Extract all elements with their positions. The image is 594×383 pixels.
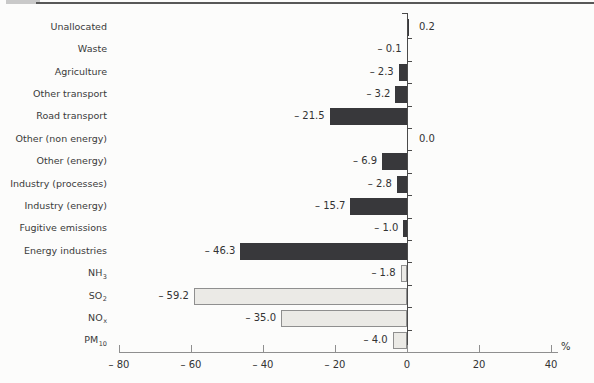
category-label: Other (non energy) [0, 132, 107, 146]
value-label: – 46.3 [175, 244, 235, 258]
zero-axis-tick [408, 330, 412, 331]
category-label: Industry (energy) [0, 199, 107, 213]
x-axis-tick [407, 345, 408, 352]
value-label: – 21.5 [265, 109, 325, 123]
category-label: Energy industries [0, 244, 107, 258]
x-axis-tick [479, 345, 480, 352]
x-axis-tick-label: – 60 [170, 359, 212, 370]
category-label-text: Unallocated [50, 21, 107, 32]
zero-axis-tick [408, 61, 412, 62]
x-axis-tick [551, 345, 552, 352]
bar [330, 108, 407, 125]
category-label-text: Agriculture [55, 66, 107, 77]
category-label-subscript: 3 [103, 273, 107, 281]
zero-axis-line [407, 13, 408, 352]
bar [382, 153, 407, 170]
category-label: NOx [0, 311, 107, 326]
x-axis-tick [263, 345, 264, 352]
x-axis-unit-label: % [561, 341, 571, 352]
x-axis-tick [335, 345, 336, 352]
x-axis-line [119, 352, 558, 353]
category-label: PM10 [0, 333, 107, 348]
bar [401, 265, 407, 282]
category-label: Other (energy) [0, 154, 107, 168]
bar [395, 86, 407, 103]
category-label: Waste [0, 42, 107, 56]
bar [393, 332, 407, 349]
scan-artifact-top-line [36, 2, 594, 4]
category-label: Agriculture [0, 65, 107, 79]
x-axis-tick-label: – 20 [314, 359, 356, 370]
bar [194, 288, 407, 305]
value-label: 0.2 [419, 20, 435, 34]
category-label-text: Other (energy) [36, 155, 107, 166]
x-axis-tick [191, 345, 192, 352]
zero-axis-tick [408, 173, 412, 174]
category-label-text: Fugitive emissions [19, 222, 107, 233]
category-label-text: Industry (energy) [24, 200, 107, 211]
category-label: Other transport [0, 87, 107, 101]
value-label: 0.0 [419, 132, 435, 146]
category-label-subscript: x [103, 317, 107, 325]
zero-axis-tick [408, 128, 412, 129]
category-label: Fugitive emissions [0, 221, 107, 235]
value-label: – 4.0 [328, 333, 388, 347]
zero-axis-tick [408, 38, 412, 39]
bar [399, 64, 407, 81]
bar [408, 19, 409, 36]
zero-axis-tick [408, 285, 412, 286]
zero-axis-tick [408, 218, 412, 219]
value-label: – 35.0 [216, 311, 276, 325]
category-label-text: Road transport [36, 110, 107, 121]
category-label: Unallocated [0, 20, 107, 34]
x-axis-tick [119, 345, 120, 352]
bar [397, 176, 407, 193]
value-label: – 15.7 [285, 199, 345, 213]
value-label: – 0.1 [342, 42, 402, 56]
x-axis-tick-label: 20 [458, 359, 500, 370]
category-label-text: Other transport [33, 88, 107, 99]
category-label-subscript: 10 [99, 340, 107, 348]
category-label: Industry (processes) [0, 177, 107, 191]
zero-axis-tick [408, 262, 412, 263]
zero-axis-top-cap [402, 13, 407, 14]
x-axis-tick-label: – 80 [98, 359, 140, 370]
bar [281, 310, 407, 327]
zero-axis-tick [408, 240, 412, 241]
value-label: – 2.8 [332, 177, 392, 191]
value-label: – 1.0 [338, 221, 398, 235]
category-label-text: Other (non energy) [16, 133, 107, 144]
category-label: NH3 [0, 266, 107, 281]
category-label-text: NO [88, 312, 103, 323]
zero-axis-tick [408, 307, 412, 308]
bar [350, 198, 407, 215]
category-label: SO2 [0, 289, 107, 304]
x-axis-tick-label: 40 [530, 359, 572, 370]
zero-axis-tick [408, 83, 412, 84]
category-label-text: Energy industries [24, 245, 107, 256]
x-axis-tick-label: – 40 [242, 359, 284, 370]
category-label: Road transport [0, 109, 107, 123]
value-label: – 3.2 [330, 87, 390, 101]
value-label: – 1.8 [336, 266, 396, 280]
category-label-text: PM [84, 334, 98, 345]
category-label-text: Waste [78, 43, 107, 54]
value-label: – 6.9 [317, 154, 377, 168]
category-label-text: Industry (processes) [10, 178, 107, 189]
value-label: – 59.2 [129, 289, 189, 303]
bar [240, 243, 407, 260]
zero-axis-tick [408, 195, 412, 196]
category-label-text: SO [89, 290, 103, 301]
zero-axis-tick [408, 106, 412, 107]
category-label-subscript: 2 [103, 295, 107, 303]
x-axis-tick-label: 0 [386, 359, 428, 370]
emissions-change-bar-chart: Unallocated0.2Waste– 0.1Agriculture– 2.3… [0, 0, 594, 383]
value-label: – 2.3 [334, 65, 394, 79]
scan-artifact-corner [6, 0, 40, 4]
zero-axis-tick [408, 150, 412, 151]
category-label-text: NH [88, 267, 102, 278]
